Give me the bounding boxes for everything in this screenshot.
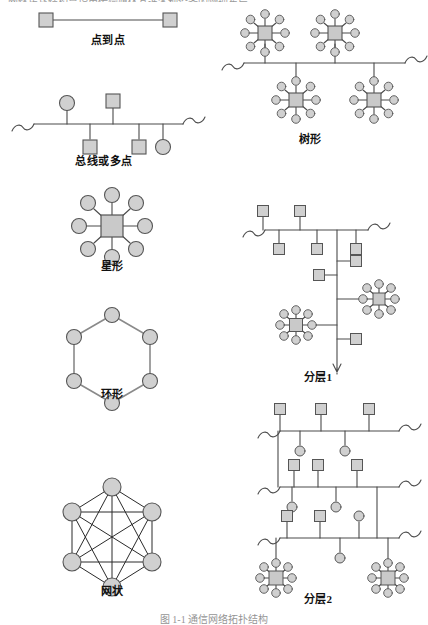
figure-caption: 图 1-1 通信网络拓扑结构 (160, 611, 268, 625)
label-point-to-point: 点到点 (91, 31, 126, 47)
label-star: 星形 (101, 257, 124, 273)
diagram-star (72, 188, 153, 265)
label-hierarchy-2: 分层2 (304, 590, 333, 606)
top-cut-text: 网络拓扑结构是指用传输媒体互连各种设备的物理布局 (8, 0, 420, 2)
diagram-tree (222, 10, 427, 124)
diagram-point-to-point (39, 13, 177, 27)
label-bus-or-multipoint: 总线或多点 (75, 152, 133, 168)
diagram-bus (12, 94, 205, 155)
diagram-mesh (63, 478, 161, 596)
network-topology-figure (0, 0, 428, 625)
diagram-hierarchy-1 (243, 206, 399, 375)
label-tree: 树形 (299, 130, 322, 146)
diagram-hierarchy-2 (256, 404, 421, 598)
figure-page: 网络拓扑结构是指用传输媒体互连各种设备的物理布局 (0, 0, 428, 625)
label-hierarchy-1: 分层1 (304, 368, 333, 384)
label-ring: 环形 (101, 385, 124, 401)
label-mesh: 网状 (101, 582, 124, 598)
